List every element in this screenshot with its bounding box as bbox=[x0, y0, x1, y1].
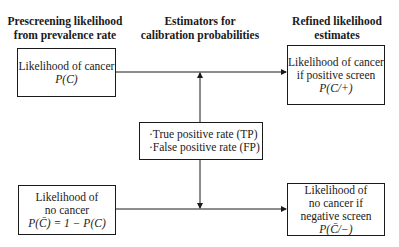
formula-p-not-c: P(C̄) = 1 − P(C) bbox=[28, 217, 105, 230]
box-text: Likelihood of bbox=[36, 191, 99, 204]
box-prior-no-cancer: Likelihood of no cancer P(C̄) = 1 − P(C) bbox=[18, 185, 116, 235]
box-prior-cancer: Likelihood of cancer P(C) bbox=[17, 48, 116, 97]
box-posterior-cancer: Likelihood of cancer if positive screen … bbox=[287, 45, 385, 105]
box-estimators: ·True positive rate (TP) ·False positive… bbox=[139, 122, 263, 160]
box-text: Likelihood of cancer bbox=[288, 56, 384, 69]
formula-p-not-c-given-neg: P(C̄/−) bbox=[319, 223, 352, 236]
box-text: if positive screen bbox=[297, 69, 376, 82]
box-text: no cancer bbox=[45, 204, 89, 217]
formula-p-c: P(C) bbox=[55, 73, 77, 86]
formula-p-c-given-pos: P(C/+) bbox=[319, 82, 352, 95]
box-text: Likelihood of cancer bbox=[19, 60, 115, 73]
box-text: negative screen bbox=[300, 210, 371, 223]
box-posterior-no-cancer: Likelihood of no cancer if negative scre… bbox=[287, 183, 385, 236]
estimator-true-positive-rate: ·True positive rate (TP) bbox=[149, 128, 258, 141]
box-text: Likelihood of bbox=[305, 184, 368, 197]
box-text: no cancer if bbox=[309, 197, 363, 210]
estimator-false-positive-rate: ·False positive rate (FP) bbox=[149, 141, 260, 154]
